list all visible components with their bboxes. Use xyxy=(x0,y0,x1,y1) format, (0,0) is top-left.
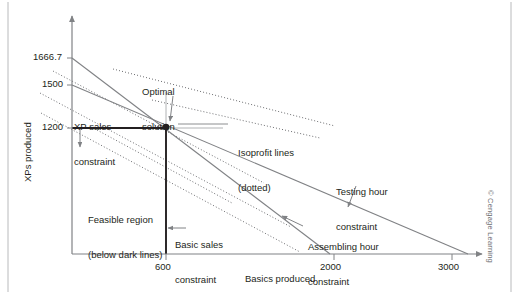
isoprofit-line2: (dotted) xyxy=(238,182,294,194)
figure-container: 1666.7 1500 1200 600 2000 3000 Basics pr… xyxy=(0,0,519,295)
annotation-assembling-hour-constraint: Assembling hour constraint xyxy=(308,218,379,295)
feasible-line1: Feasible region xyxy=(88,214,162,226)
feasible-line2: (below dark lines) xyxy=(88,249,162,261)
annotation-optimal-solution: Optimal solution xyxy=(142,63,175,155)
isoprofit-line-5 xyxy=(152,100,320,138)
y-tick-label-1500: 1500 xyxy=(42,78,63,89)
basic-sales-line2: constraint xyxy=(175,274,223,286)
testing-line1: Testing hour xyxy=(336,186,388,198)
basic-sales-line1: Basic sales xyxy=(175,239,223,251)
annotation-feasible-region: Feasible region (below dark lines) xyxy=(88,191,162,283)
y-axis-title: XPs produced xyxy=(22,122,33,182)
optimal-solution-line2: solution xyxy=(142,121,175,133)
x-axis-title: Basics produced xyxy=(245,273,315,284)
x-tick-label-3000: 3000 xyxy=(438,261,459,272)
annotation-xp-sales-constraint: XP sales constraint xyxy=(74,98,115,190)
optimal-solution-line1: Optimal xyxy=(142,86,175,98)
assembling-line1: Assembling hour xyxy=(308,241,379,253)
copyright-credit: © Cengage Learning xyxy=(486,190,495,263)
annotation-basic-sales-constraint: Basic sales constraint xyxy=(175,216,223,295)
isoprofit-line1: Isoprofit lines xyxy=(238,147,294,159)
y-tick-label-1666: 1666.7 xyxy=(33,51,62,62)
y-tick-label-1200: 1200 xyxy=(42,121,63,132)
annotation-isoprofit-lines: Isoprofit lines (dotted) xyxy=(238,124,294,216)
assembling-hour-leader-arrow xyxy=(282,216,303,226)
assembling-line2: constraint xyxy=(308,276,379,288)
xp-sales-line2: constraint xyxy=(74,156,115,168)
xp-sales-line1: XP sales xyxy=(74,121,115,133)
